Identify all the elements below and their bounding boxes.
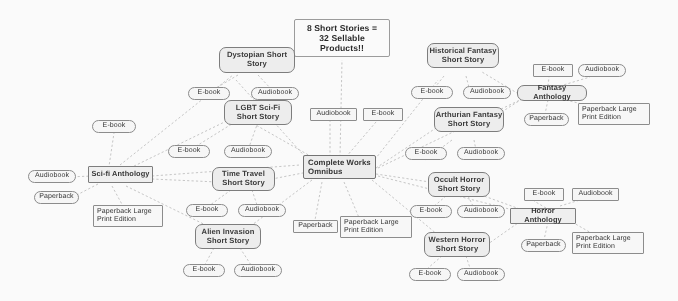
- format-ebook-fantasy-anthology[interactable]: E-book: [533, 64, 573, 77]
- title-line-1: 8 Short Stories =: [293, 23, 391, 33]
- format-label: Audiobook: [573, 190, 618, 198]
- format-audiobook-scifi-anthology[interactable]: Audiobook: [28, 170, 76, 183]
- format-label: Audiobook: [464, 88, 510, 96]
- node-label-line-2: Short Story: [433, 120, 505, 129]
- format-label-line-2: Print Edition: [94, 216, 168, 224]
- format-label: Audiobook: [458, 149, 504, 157]
- format-ebook-historical-fantasy[interactable]: E-book: [411, 86, 453, 99]
- format-ebook-lgbt[interactable]: E-book: [168, 145, 210, 158]
- format-ebook-horror-anthology[interactable]: E-book: [524, 188, 564, 201]
- format-label: Paperback: [35, 193, 78, 201]
- format-ebook-arthurian-fantasy[interactable]: E-book: [405, 147, 447, 160]
- format-paperback-fantasy-anthology[interactable]: Paperback: [524, 113, 569, 126]
- node-label-line-1: Complete Works: [304, 158, 383, 167]
- node-label: Fantasy Anthology: [518, 84, 586, 101]
- format-label: E-book: [364, 110, 402, 118]
- format-audiobook-occult-horror[interactable]: Audiobook: [457, 205, 505, 218]
- format-label: E-book: [534, 66, 572, 74]
- format-label: E-book: [189, 89, 229, 97]
- node-label-line-2: Omnibus: [304, 167, 383, 176]
- format-label: Paperback: [294, 222, 337, 230]
- format-ebook-alien-invasion[interactable]: E-book: [183, 264, 225, 277]
- format-ebook-dystopian[interactable]: E-book: [188, 87, 230, 100]
- format-label: Paperback: [522, 241, 565, 249]
- format-paperback-large-horror-anthology[interactable]: Paperback Large Print Edition: [572, 232, 644, 254]
- node-horror-anthology[interactable]: Horror Anthology: [510, 208, 576, 224]
- node-label-line-2: Short Story: [223, 113, 293, 122]
- format-paperback-scifi-anthology[interactable]: Paperback: [34, 191, 79, 204]
- format-paperback-large-omnibus[interactable]: Paperback Large Print Edition: [340, 216, 412, 238]
- format-label-line-1: Paperback Large: [341, 219, 417, 227]
- format-audiobook-arthurian-fantasy[interactable]: Audiobook: [457, 147, 505, 160]
- node-label-line-2: Short Story: [211, 179, 276, 188]
- node-lgbt-scifi-short-story[interactable]: LGBT Sci-Fi Short Story: [224, 100, 292, 125]
- format-paperback-omnibus[interactable]: Paperback: [293, 220, 338, 233]
- format-label: Audiobook: [239, 206, 285, 214]
- format-audiobook-lgbt[interactable]: Audiobook: [224, 145, 272, 158]
- node-western-horror-short-story[interactable]: Western Horror Short Story: [424, 232, 490, 257]
- format-label-line-1: Paperback Large: [94, 208, 168, 216]
- format-ebook-time-travel[interactable]: E-book: [186, 204, 228, 217]
- format-paperback-large-fantasy-anthology[interactable]: Paperback Large Print Edition: [578, 103, 650, 125]
- node-occult-horror-short-story[interactable]: Occult Horror Short Story: [428, 172, 490, 197]
- format-label: Paperback: [525, 115, 568, 123]
- format-ebook-occult-horror[interactable]: E-book: [410, 205, 452, 218]
- title-line-2: 32 Sellable: [293, 33, 391, 43]
- format-label: Audiobook: [252, 89, 298, 97]
- format-label-line-1: Paperback Large: [573, 235, 649, 243]
- format-label-line-2: Print Edition: [573, 243, 649, 251]
- node-complete-works-omnibus[interactable]: Complete Works Omnibus: [303, 155, 376, 179]
- format-label: E-book: [184, 266, 224, 274]
- format-ebook-omnibus[interactable]: E-book: [363, 108, 403, 121]
- format-audiobook-dystopian[interactable]: Audiobook: [251, 87, 299, 100]
- node-label-line-2: Short Story: [427, 185, 491, 194]
- node-arthurian-fantasy-short-story[interactable]: Arthurian Fantasy Short Story: [434, 107, 504, 132]
- node-label: Sci-fi Anthology: [89, 170, 152, 179]
- format-label-line-1: Paperback Large: [579, 106, 655, 114]
- format-audiobook-time-travel[interactable]: Audiobook: [238, 204, 286, 217]
- format-audiobook-alien-invasion[interactable]: Audiobook: [234, 264, 282, 277]
- format-label: E-book: [410, 270, 450, 278]
- format-label: Audiobook: [579, 66, 625, 74]
- node-label-line-2: Short Story: [426, 56, 500, 65]
- node-dystopian-short-story[interactable]: Dystopian Short Story: [219, 47, 295, 73]
- format-label: Audiobook: [458, 207, 504, 215]
- node-label-line-2: Short Story: [423, 245, 491, 254]
- format-audiobook-horror-anthology[interactable]: Audiobook: [572, 188, 619, 201]
- format-paperback-horror-anthology[interactable]: Paperback: [521, 239, 566, 252]
- format-ebook-western-horror[interactable]: E-book: [409, 268, 451, 281]
- node-label: Horror Anthology: [511, 207, 575, 224]
- format-label: Audiobook: [458, 270, 504, 278]
- format-label-line-2: Print Edition: [341, 227, 417, 235]
- node-historical-fantasy-short-story[interactable]: Historical Fantasy Short Story: [427, 43, 499, 68]
- format-audiobook-historical-fantasy[interactable]: Audiobook: [463, 86, 511, 99]
- format-label: Audiobook: [29, 172, 75, 180]
- format-label: E-book: [412, 88, 452, 96]
- node-alien-invasion-short-story[interactable]: Alien Invasion Short Story: [195, 224, 261, 249]
- node-label-line-2: Short Story: [194, 237, 262, 246]
- format-label: E-book: [525, 190, 563, 198]
- format-ebook-scifi-anthology[interactable]: E-book: [92, 120, 136, 133]
- format-label: E-book: [411, 207, 451, 215]
- node-fantasy-anthology[interactable]: Fantasy Anthology: [517, 85, 587, 101]
- node-scifi-anthology[interactable]: Sci-fi Anthology: [88, 166, 153, 183]
- format-label: Audiobook: [311, 110, 356, 118]
- format-label: Audiobook: [235, 266, 281, 274]
- format-label: E-book: [93, 122, 135, 130]
- node-label-line-2: Story: [218, 60, 296, 69]
- format-audiobook-western-horror[interactable]: Audiobook: [457, 268, 505, 281]
- title-box: 8 Short Stories = 32 Sellable Products!!: [294, 19, 390, 57]
- format-label-line-2: Print Edition: [579, 114, 655, 122]
- format-audiobook-omnibus[interactable]: Audiobook: [310, 108, 357, 121]
- mindmap-canvas: 8 Short Stories = 32 Sellable Products!!…: [0, 0, 678, 301]
- format-label: E-book: [406, 149, 446, 157]
- format-audiobook-fantasy-anthology[interactable]: Audiobook: [578, 64, 626, 77]
- title-line-3: Products!!: [293, 43, 391, 53]
- node-time-travel-short-story[interactable]: Time Travel Short Story: [212, 167, 275, 191]
- format-label: E-book: [187, 206, 227, 214]
- format-paperback-large-scifi-anthology[interactable]: Paperback Large Print Edition: [93, 205, 163, 227]
- format-label: E-book: [169, 147, 209, 155]
- format-label: Audiobook: [225, 147, 271, 155]
